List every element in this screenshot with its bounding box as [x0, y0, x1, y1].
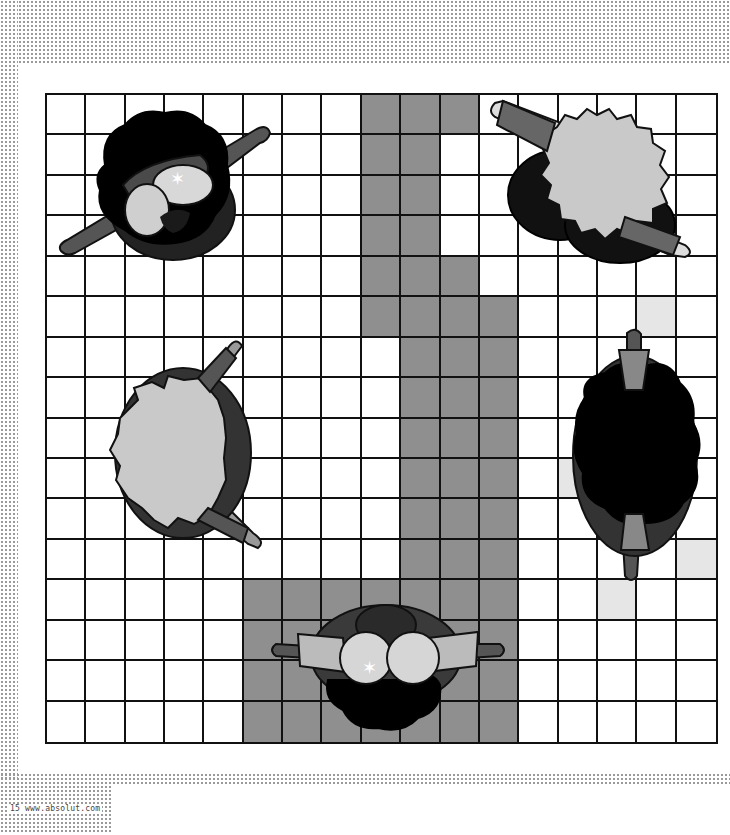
grid-cell[interactable]	[322, 378, 361, 418]
path-cell[interactable]	[401, 378, 440, 418]
grid-cell[interactable]	[519, 580, 558, 620]
path-cell[interactable]	[401, 459, 440, 499]
grid-cell[interactable]	[47, 661, 86, 701]
grid-cell[interactable]	[322, 297, 361, 337]
path-cell[interactable]	[480, 378, 519, 418]
grid-cell[interactable]	[165, 702, 204, 742]
grid-cell[interactable]	[283, 297, 322, 337]
grid-cell[interactable]	[362, 540, 401, 580]
path-cell[interactable]	[441, 338, 480, 378]
grid-cell[interactable]	[637, 661, 676, 701]
grid-cell[interactable]	[47, 702, 86, 742]
character-middle-left[interactable]	[98, 338, 278, 553]
grid-cell[interactable]	[519, 297, 558, 337]
grid-cell[interactable]	[322, 257, 361, 297]
path-cell[interactable]	[362, 95, 401, 135]
path-cell[interactable]	[441, 95, 480, 135]
grid-cell[interactable]	[637, 580, 676, 620]
grid-cell[interactable]	[204, 580, 243, 620]
grid-cell[interactable]	[204, 702, 243, 742]
path-cell[interactable]	[362, 176, 401, 216]
path-cell[interactable]	[362, 297, 401, 337]
grid-cell[interactable]	[86, 621, 125, 661]
grid-cell[interactable]	[322, 338, 361, 378]
grid-cell[interactable]	[322, 135, 361, 175]
path-cell[interactable]	[362, 257, 401, 297]
grid-cell[interactable]	[441, 176, 480, 216]
grid-cell[interactable]	[283, 499, 322, 539]
grid-cell[interactable]	[86, 702, 125, 742]
grid-cell[interactable]	[204, 621, 243, 661]
grid-cell[interactable]	[519, 540, 558, 580]
grid-cell[interactable]	[47, 499, 86, 539]
grid-cell[interactable]	[322, 459, 361, 499]
path-cell[interactable]	[480, 338, 519, 378]
path-cell[interactable]	[480, 499, 519, 539]
grid-cell[interactable]	[519, 499, 558, 539]
grid-cell[interactable]	[677, 702, 716, 742]
grid-cell[interactable]	[165, 297, 204, 337]
path-cell[interactable]	[401, 95, 440, 135]
grid-cell[interactable]	[559, 621, 598, 661]
grid-cell[interactable]	[322, 95, 361, 135]
grid-cell[interactable]	[441, 216, 480, 256]
path-cell[interactable]	[480, 459, 519, 499]
grid-cell[interactable]	[283, 540, 322, 580]
grid-cell[interactable]	[322, 176, 361, 216]
grid-cell[interactable]	[204, 297, 243, 337]
footer-url[interactable]: www.absolut.com	[25, 804, 100, 813]
grid-cell[interactable]	[126, 661, 165, 701]
path-cell[interactable]	[441, 257, 480, 297]
grid-cell[interactable]	[283, 378, 322, 418]
grid-cell[interactable]	[362, 459, 401, 499]
grid-cell[interactable]	[637, 621, 676, 661]
grid-cell[interactable]	[86, 661, 125, 701]
grid-cell[interactable]	[283, 419, 322, 459]
grid-cell[interactable]	[126, 702, 165, 742]
grid-cell[interactable]	[47, 580, 86, 620]
grid-cell[interactable]	[598, 621, 637, 661]
grid-cell[interactable]	[519, 338, 558, 378]
path-cell[interactable]	[401, 419, 440, 459]
path-cell[interactable]	[480, 540, 519, 580]
grid-cell[interactable]	[47, 459, 86, 499]
grid-cell[interactable]	[519, 419, 558, 459]
path-cell[interactable]	[480, 297, 519, 337]
grid-cell[interactable]	[677, 661, 716, 701]
path-cell[interactable]	[441, 540, 480, 580]
grid-cell[interactable]	[559, 661, 598, 701]
grid-cell[interactable]	[598, 661, 637, 701]
grid-cell[interactable]	[283, 459, 322, 499]
grid-cell[interactable]	[322, 499, 361, 539]
grid-cell[interactable]	[283, 257, 322, 297]
grid-cell[interactable]	[441, 135, 480, 175]
character-top-right[interactable]	[485, 105, 705, 270]
grid-cell[interactable]	[86, 297, 125, 337]
grid-cell[interactable]	[204, 661, 243, 701]
character-top-left[interactable]: ✶	[55, 105, 275, 270]
grid-cell[interactable]	[283, 95, 322, 135]
path-cell[interactable]	[401, 297, 440, 337]
grid-cell[interactable]	[283, 216, 322, 256]
grid-cell[interactable]	[283, 338, 322, 378]
path-cell[interactable]	[441, 378, 480, 418]
grid-cell[interactable]	[362, 419, 401, 459]
grid-cell[interactable]	[283, 176, 322, 216]
grid-cell[interactable]	[126, 580, 165, 620]
path-cell[interactable]	[441, 499, 480, 539]
grid-cell[interactable]	[322, 540, 361, 580]
grid-cell[interactable]	[519, 378, 558, 418]
grid-cell[interactable]	[244, 297, 283, 337]
path-cell[interactable]	[441, 419, 480, 459]
hint-cell[interactable]	[598, 580, 637, 620]
grid-cell[interactable]	[47, 378, 86, 418]
path-cell[interactable]	[401, 540, 440, 580]
grid-cell[interactable]	[126, 621, 165, 661]
path-cell[interactable]	[401, 176, 440, 216]
path-cell[interactable]	[401, 216, 440, 256]
grid-cell[interactable]	[283, 135, 322, 175]
character-middle-right[interactable]	[565, 328, 705, 583]
grid-cell[interactable]	[677, 621, 716, 661]
grid-cell[interactable]	[677, 580, 716, 620]
grid-cell[interactable]	[519, 459, 558, 499]
